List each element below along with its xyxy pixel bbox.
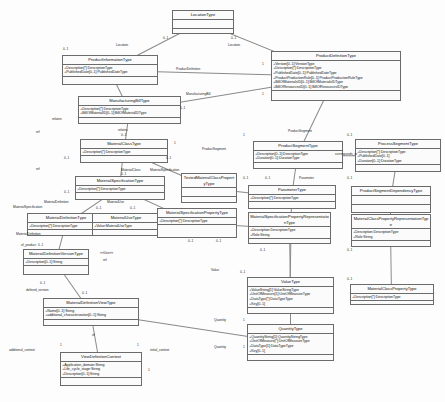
class-name: TestedMaterialClassPropertyType xyxy=(182,174,236,188)
class-name: MaterialDefinitionVersionType xyxy=(24,250,88,259)
class-box-material-use-type[interactable]: MaterialUseType+Value:MaterialUseType xyxy=(92,213,160,236)
class-box-view-definition-context[interactable]: ViewDefinitionContext+Application_domain… xyxy=(60,352,142,386)
role-label: MaterialUse xyxy=(107,200,124,204)
role-label: ref xyxy=(103,258,107,262)
uml-class-diagram: LocationTypeProductInformationType+Descr… xyxy=(0,0,445,402)
class-attribute: +Description[*]:DescriptionType xyxy=(250,196,334,201)
role-label: initial_context xyxy=(150,348,169,352)
multiplicity-label: 0..1 xyxy=(82,291,87,295)
class-box-quantity-type[interactable]: QuantityType+QuantityString[1]:QuantityS… xyxy=(247,324,334,361)
multiplicity-label: 0..1 xyxy=(260,248,265,252)
class-box-material-class-property-type[interactable]: MaterialClassPropertyType+Description[*]… xyxy=(350,284,434,305)
role-label: MaterialDefinition xyxy=(44,200,69,204)
class-name: ProductDefinitionType xyxy=(272,52,400,61)
class-attributes xyxy=(173,20,233,29)
class-operations xyxy=(24,266,88,271)
role-label: Quantity xyxy=(214,345,226,349)
class-attributes: +Description[*]:DescriptionType+Publishe… xyxy=(63,65,157,77)
class-box-product-information-type[interactable]: ProductInformationType+Description[*]:De… xyxy=(62,55,158,85)
class-box-material-specification-property-representation-type[interactable]: MaterialSpecificationPropertyRepresentat… xyxy=(248,212,331,244)
class-operations xyxy=(352,205,430,210)
class-operations xyxy=(158,225,236,230)
class-operations xyxy=(76,193,164,198)
class-name: ProcessSegmentType xyxy=(356,140,440,149)
class-attribute: +Description[0..1]:String xyxy=(62,372,140,377)
class-name: MaterialClassPropertyRepresentationType xyxy=(352,215,430,229)
class-attributes: +Description[*]:DescriptionType xyxy=(158,218,236,225)
class-box-material-class-type[interactable]: MaterialClassType+Description[*]:Descrip… xyxy=(80,139,168,163)
multiplicity-label: 0..1 xyxy=(64,156,69,160)
class-operations xyxy=(356,165,440,170)
multiplicity-label: 0..1 xyxy=(64,190,69,194)
class-attribute: +BillOfMaterialID[0..1]:BillOfMaterialID… xyxy=(80,111,179,116)
class-name: ManufacturingBillType xyxy=(79,97,180,106)
role-label: relates xyxy=(52,117,62,121)
class-box-material-specification-property-type[interactable]: MaterialSpecificationPropertyType+Descri… xyxy=(157,208,237,238)
class-name: MaterialClassType xyxy=(81,140,167,149)
class-box-material-definition-version-type[interactable]: MaterialDefinitionVersionType+Descriptio… xyxy=(23,249,89,275)
role-label: MaterialDefinition xyxy=(16,232,41,236)
class-attributes: +Description[*]:DescriptionType xyxy=(81,149,167,156)
class-attribute: +Duration[0..1]:DurationType xyxy=(357,159,439,164)
role-label: Location xyxy=(116,43,128,47)
class-box-value-type[interactable]: ValueType+ValueString[1]:ValueStringType… xyxy=(247,277,334,314)
class-attributes: +Description[*]:DescriptionType xyxy=(351,294,433,301)
multiplicity-label: 0..1 xyxy=(38,243,43,247)
role-label: ProductSegment xyxy=(202,147,226,151)
class-name: ValueType xyxy=(248,278,333,287)
multiplicity-label: 1 xyxy=(262,92,264,96)
multiplicity-label: 0..1 xyxy=(121,172,126,176)
class-attribute: +Description[*]:DescriptionType xyxy=(352,295,432,300)
multiplicity-label: 0..1 xyxy=(240,270,245,274)
multiplicity-label: 0..1 xyxy=(347,248,352,252)
class-name: QuantityType xyxy=(248,325,333,334)
class-attributes: +Description[*]:DescriptionType xyxy=(76,186,164,193)
class-attributes: +Description[*]:DescriptionType+BillOfMa… xyxy=(79,106,180,118)
class-attribute: +Value:MaterialUseType xyxy=(94,224,158,229)
multiplicity-label: 1 xyxy=(243,345,245,349)
class-name: MaterialDefinitionViewType xyxy=(44,299,138,308)
class-name: ParameterType xyxy=(249,186,335,195)
class-operations xyxy=(173,29,233,34)
class-name: MaterialSpecificationType xyxy=(76,177,164,186)
class-name: ProductInformationType xyxy=(63,56,157,65)
class-box-parameter-type[interactable]: ParameterType+Description[*]:Description… xyxy=(248,185,336,209)
multiplicity-label: 0..1 xyxy=(216,239,221,243)
class-attribute: +Key[0..1] xyxy=(249,302,332,307)
class-box-location-type[interactable]: LocationType xyxy=(172,10,234,34)
class-attribute: +Role:String xyxy=(353,235,429,240)
class-attribute: +BillOfResourcesID[0..1]:BillOfResources… xyxy=(273,85,399,90)
multiplicity-label: 1 xyxy=(148,368,150,372)
class-box-tested-material-class-property-type[interactable]: TestedMaterialClassPropertyType xyxy=(181,173,237,203)
multiplicity-label: 0..1 xyxy=(180,106,185,110)
role-label: ManufacturingBill xyxy=(186,92,210,96)
class-operations xyxy=(351,301,433,306)
class-attribute: +Duration[0..1]:DurationType xyxy=(255,156,341,161)
class-attributes: +Name[0..1]:String+additional_characteri… xyxy=(44,308,138,320)
class-attributes: +ValueString[1]:ValueStringType+UnitOfMe… xyxy=(248,287,333,308)
class-box-material-specification-type[interactable]: MaterialSpecificationType+Description[*]… xyxy=(75,176,165,200)
class-attribute: +additional_characterization[0..1]:Strin… xyxy=(45,313,137,318)
class-box-material-class-property-representation-type[interactable]: MaterialClassPropertyRepresentationType+… xyxy=(351,214,431,247)
class-box-process-segment-type[interactable]: ProcessSegmentType+Description[*]:Descri… xyxy=(355,139,441,172)
class-operations xyxy=(248,308,333,313)
multiplicity-label: 0..1 xyxy=(121,133,126,137)
class-operations xyxy=(182,197,236,202)
class-box-product-segment-dependency-type[interactable]: ProductSegmentDependencyType xyxy=(351,186,431,213)
class-operations xyxy=(272,91,400,96)
role-label: relates xyxy=(118,128,128,132)
class-box-product-segment-type[interactable]: ProductSegmentType+Description[0..1]:Des… xyxy=(253,141,343,169)
class-attribute: +Description[*]:DescriptionType xyxy=(77,187,163,192)
role-label: <<Use>> xyxy=(100,251,113,255)
class-attribute: +Description[*]:DescriptionType xyxy=(159,219,235,224)
class-attributes: +Description[0..1]:DescriptionType+Durat… xyxy=(254,151,342,163)
class-attribute: +Role:String xyxy=(250,233,329,238)
class-box-material-definition-view-type[interactable]: MaterialDefinitionViewType+Name[0..1]:St… xyxy=(43,298,139,326)
role-label: Parameter xyxy=(299,176,314,180)
role-label: corresponds_to xyxy=(335,152,357,156)
role-label: defined_version xyxy=(26,288,49,292)
class-box-manufacturing-bill-type[interactable]: ManufacturingBillType+Description[*]:Des… xyxy=(78,96,181,124)
class-name: ProductSegmentDependencyType xyxy=(352,187,430,196)
class-box-product-definition-type[interactable]: ProductDefinitionType+Version[0..1]:Vers… xyxy=(271,51,401,101)
multiplicity-label: 0..1 xyxy=(347,277,352,281)
